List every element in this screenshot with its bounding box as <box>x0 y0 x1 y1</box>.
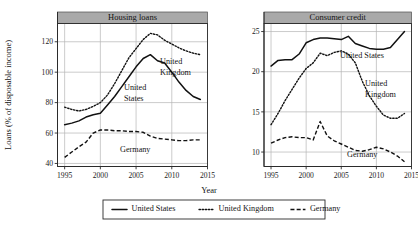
legend-label-text: Germany <box>310 204 341 213</box>
annotation-right-germany-line: Germany <box>347 150 378 159</box>
annotation-right-united-kingdom: UnitedKingdom <box>365 79 397 99</box>
chart-svg: Housing loans406080100120199520002005201… <box>0 0 418 228</box>
panel-title-text: Consumer credit <box>310 12 367 22</box>
x-tick-label: 1995 <box>263 171 278 180</box>
panel-title-text: Housing loans <box>108 12 157 22</box>
annotation-left-united-states-line: States <box>124 94 144 103</box>
series-line-united-states <box>271 32 404 67</box>
annotation-right-united-kingdom-line: Kingdom <box>365 90 397 99</box>
annotation-left-germany-line: Germany <box>120 145 151 154</box>
annotation-left-united-states-line: United <box>124 83 146 92</box>
x-tick-label: 2005 <box>334 171 349 180</box>
x-tick-label: 1995 <box>57 171 72 180</box>
annotation-left-united-kingdom: UnitedKingdom <box>160 57 192 77</box>
x-tick-label: 2010 <box>369 171 384 180</box>
x-tick-label: 2005 <box>128 171 143 180</box>
annotation-right-united-states: United States <box>340 51 384 60</box>
annotation-left-united-kingdom-line: United <box>160 57 182 66</box>
x-tick-label: 2000 <box>93 171 108 180</box>
y-tick-label: 20 <box>252 67 260 76</box>
chart-legend: United StatesUnited KingdomGermany <box>103 200 341 219</box>
x-tick-label: 2000 <box>299 171 314 180</box>
x-tick-label: 2010 <box>164 171 179 180</box>
y-tick-label: 15 <box>252 108 260 117</box>
annotation-left-germany: Germany <box>120 145 151 154</box>
y-tick-label: 80 <box>45 98 53 107</box>
y-tick-label: 60 <box>45 129 53 138</box>
y-tick-label: 40 <box>45 159 53 168</box>
x-tick-label: 2015 <box>200 171 215 180</box>
y-axis-title: Loans (% of disposable income) <box>3 40 13 150</box>
annotation-left-united-states: UnitedStates <box>124 83 146 103</box>
y-tick-label: 100 <box>42 68 54 77</box>
legend-label-text: United Kingdom <box>219 204 275 213</box>
x-axis-title: Year <box>201 185 217 195</box>
y-tick-label: 120 <box>42 37 54 46</box>
annotation-right-united-states-line: United States <box>340 51 384 60</box>
legend-label-text: United States <box>132 204 176 213</box>
annotation-left-united-kingdom-line: Kingdom <box>160 68 192 77</box>
x-tick-label: 2015 <box>404 171 418 180</box>
y-tick-label: 10 <box>252 148 260 157</box>
figure-container: Housing loans406080100120199520002005201… <box>0 0 418 228</box>
annotation-right-germany: Germany <box>347 150 378 159</box>
y-tick-label: 25 <box>252 27 260 36</box>
series-line-germany <box>271 122 404 162</box>
annotation-right-united-kingdom-line: United <box>365 79 387 88</box>
